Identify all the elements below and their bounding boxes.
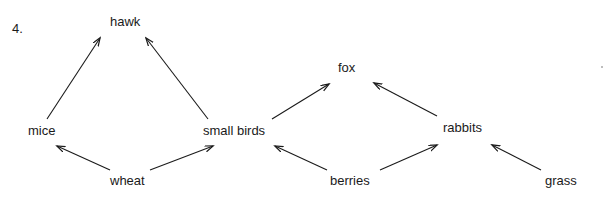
food-web-diagram-page: 4. hawk fox mice small birds rabbits whe… <box>0 0 613 197</box>
node-label-fox: fox <box>338 61 355 74</box>
node-label-mice: mice <box>28 124 55 137</box>
node-label-grass: grass <box>545 174 577 187</box>
node-label-small-birds: small birds <box>203 124 265 137</box>
node-label-rabbits: rabbits <box>443 121 482 134</box>
edge-wheat-mice <box>57 146 110 170</box>
edge-mice-hawk <box>47 38 100 119</box>
edge-grass-rabbits <box>492 145 541 170</box>
edge-small-birds-hawk <box>146 38 208 119</box>
edge-small-birds-fox <box>272 84 329 119</box>
edge-berries-small-birds <box>275 146 327 170</box>
edge-berries-rabbits <box>380 145 437 170</box>
edge-rabbits-fox <box>374 83 437 116</box>
page-speck <box>601 66 603 68</box>
node-label-wheat: wheat <box>110 174 145 187</box>
node-label-hawk: hawk <box>110 15 140 28</box>
node-label-berries: berries <box>330 174 370 187</box>
food-web-arrows <box>0 0 613 197</box>
edge-wheat-small-birds <box>150 146 213 170</box>
